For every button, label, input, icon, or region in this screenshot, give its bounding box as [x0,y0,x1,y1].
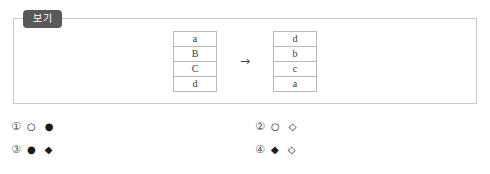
source-cell-2: B [174,46,217,61]
table-row: a [274,76,317,91]
source-cell-1: a [174,31,217,46]
target-cell-1: d [274,31,317,46]
option-1-glyphs: ○ ● [27,122,57,132]
option-2-number: ② [255,121,265,132]
option-3-number: ③ [11,144,21,155]
table-row: c [274,61,317,76]
target-cell-2: b [274,46,317,61]
table-row: d [174,76,217,91]
option-1-number: ① [11,121,21,132]
option-4-number: ④ [255,144,265,155]
source-sequence-table: a B C d [173,31,217,92]
answer-option-2[interactable]: ② ○ ◇ [255,121,299,132]
table-row: C [174,61,217,76]
answer-options: ① ○ ● ② ○ ◇ ③ ● ◆ ④ ◆ ◇ [0,118,490,170]
table-row: a [174,31,217,46]
target-cell-4: a [274,76,317,91]
table-row: B [174,46,217,61]
example-panel: 보기 a B C d → d [13,18,477,104]
option-4-glyphs: ◆ ◇ [271,145,299,155]
source-cell-3: C [174,61,217,76]
target-cell-3: c [274,61,317,76]
right-arrow-icon: → [217,55,273,67]
answer-option-1[interactable]: ① ○ ● [11,121,57,132]
answer-option-3[interactable]: ③ ● ◆ [11,144,55,155]
source-cell-4: d [174,76,217,91]
answer-option-4[interactable]: ④ ◆ ◇ [255,144,298,155]
table-row: b [274,46,317,61]
target-sequence-table: d b c a [273,31,317,92]
transformation-figure: a B C d → d b [14,19,476,103]
option-2-glyphs: ○ ◇ [271,122,300,132]
table-row: d [274,31,317,46]
option-3-glyphs: ● ◆ [27,145,56,155]
